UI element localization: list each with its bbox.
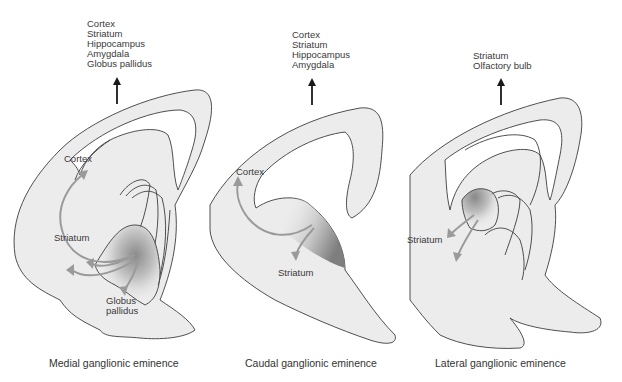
label-striatum-caudal: Striatum: [278, 267, 313, 278]
up-arrow-icon: [497, 78, 505, 105]
destinations-caudal: Cortex Striatum Hippocampus Amygdala: [292, 29, 353, 70]
caption-lateral: Lateral ganglionic eminence: [435, 357, 566, 369]
up-arrow-icon: [308, 78, 316, 105]
label-striatum-lateral: Striatum: [407, 234, 442, 245]
up-arrow-icon: [113, 77, 121, 104]
label-pallidus-medial: pallidus: [106, 305, 138, 316]
ganglionic-eminence-diagram: Cortex Striatum Hippocampus Amygdala Glo…: [0, 0, 622, 382]
lateral-eminence: [462, 189, 498, 231]
panel-caudal: Cortex Striatum Hippocampus Amygdala Cor…: [210, 29, 395, 369]
label-cortex-medial: Cortex: [64, 153, 92, 164]
panel-lateral: Striatum Olfactory bulb Striatum Lateral…: [407, 50, 601, 369]
destinations-medial: Cortex Striatum Hippocampus Amygdala Glo…: [87, 18, 152, 69]
label-striatum-medial: Striatum: [54, 232, 89, 243]
caption-caudal: Caudal ganglionic eminence: [245, 357, 377, 369]
caption-medial: Medial ganglionic eminence: [49, 357, 179, 369]
destinations-lateral: Striatum Olfactory bulb: [473, 50, 532, 71]
panel-medial: Cortex Striatum Hippocampus Amygdala Glo…: [14, 18, 212, 369]
label-cortex-caudal: Cortex: [236, 166, 264, 177]
